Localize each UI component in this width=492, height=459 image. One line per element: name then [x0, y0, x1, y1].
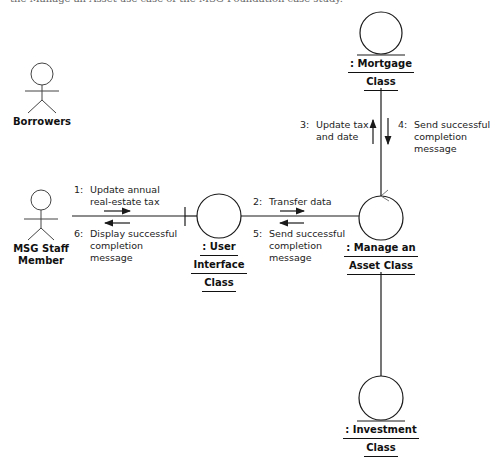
message-2-line1: Transfer data: [269, 196, 332, 207]
entity-class-icon-investment: [357, 376, 405, 421]
entity-class-icon-mortgage: [357, 12, 405, 55]
message-6: 6:Display successful completion message: [74, 228, 177, 264]
object-ui-line1: : User: [200, 240, 237, 256]
boundary-class-icon: [185, 194, 241, 238]
borrowers-actor-icon: [25, 63, 59, 113]
object-mortgage-line1: : Mortgage: [348, 57, 414, 73]
message-5-line3: message: [253, 252, 345, 264]
object-user-interface: : User Interface Class: [189, 240, 249, 294]
message-6-line1: Display successful: [90, 228, 177, 239]
object-ui-line2: Interface: [191, 258, 246, 274]
msg-staff-actor-icon: [24, 190, 58, 240]
message-4: 4:Send successful completion message: [398, 119, 490, 155]
message-2: 2:Transfer data: [253, 196, 332, 208]
message-4-line1: Send successful: [414, 119, 490, 130]
object-investment: : Investment Class: [336, 423, 426, 459]
object-ui-line3: Class: [202, 276, 235, 292]
actor-label-borrowers: Borrowers: [12, 116, 72, 128]
message-3-line2: and date: [300, 131, 369, 143]
actor-label-msg-staff-line2: Member: [10, 255, 72, 267]
message-2-num: 2:: [253, 196, 269, 208]
control-class-icon: [359, 190, 403, 240]
message-3-num: 3:: [300, 119, 316, 131]
message-6-line2: completion: [74, 240, 177, 252]
message-4-num: 4:: [398, 119, 414, 131]
message-5-num: 5:: [253, 228, 269, 240]
object-manage-line2: Asset Class: [347, 259, 415, 275]
object-investment-line2: Class: [364, 441, 397, 457]
message-5-line2: completion: [253, 240, 345, 252]
actor-label-msg-staff-line1: MSG Staff: [10, 243, 72, 255]
message-6-line3: message: [74, 252, 177, 264]
object-mortgage-line2: Class: [364, 75, 397, 91]
message-5-line1: Send successful: [269, 228, 345, 239]
message-3-line1: Update tax: [316, 119, 369, 130]
object-manage-line1: : Manage an: [344, 241, 417, 257]
message-5: 5:Send successful completion message: [253, 228, 345, 264]
message-1-line1: Update annual: [90, 184, 160, 195]
message-4-line3: message: [398, 143, 490, 155]
object-mortgage: : Mortgage Class: [341, 57, 421, 93]
message-1-line2: real-estate tax: [74, 196, 160, 208]
actor-label-msg-staff: MSG Staff Member: [10, 243, 72, 267]
message-1-num: 1:: [74, 184, 90, 196]
message-3: 3:Update tax and date: [300, 119, 369, 143]
message-6-num: 6:: [74, 228, 90, 240]
message-1: 1:Update annual real-estate tax: [74, 184, 160, 208]
object-investment-line1: : Investment: [343, 423, 418, 439]
object-manage-asset: : Manage an Asset Class: [336, 241, 426, 277]
message-4-line2: completion: [398, 131, 490, 143]
